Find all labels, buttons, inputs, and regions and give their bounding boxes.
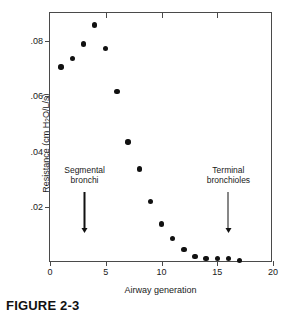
data-point — [159, 221, 164, 226]
data-point — [58, 64, 63, 69]
x-tick-mark — [50, 261, 51, 266]
data-point — [92, 22, 97, 27]
y-tick-label: .02 — [30, 203, 43, 212]
data-point — [81, 41, 86, 46]
data-point — [137, 166, 142, 171]
y-tick-label: .04 — [30, 147, 43, 156]
y-tick-mark — [45, 96, 50, 97]
annotation-arrow-icon — [224, 192, 233, 233]
annotation-arrow-icon — [80, 192, 89, 233]
data-point — [170, 236, 175, 241]
x-tick-mark-top — [217, 13, 218, 18]
y-tick-mark — [45, 207, 50, 208]
data-point — [237, 258, 242, 263]
arrow-head — [81, 228, 87, 233]
x-axis-label: Airway generation — [49, 285, 272, 295]
chart-annotation: Segmentalbronchi — [64, 166, 105, 185]
x-tick-label: 10 — [156, 268, 166, 277]
data-point — [103, 46, 108, 51]
data-point — [70, 56, 75, 61]
arrow-shaft — [84, 192, 85, 229]
x-tick-label: 15 — [212, 268, 222, 277]
data-point — [192, 254, 197, 259]
chart-annotation: Terminalbronchioles — [207, 166, 250, 185]
y-tick-label: .08 — [30, 36, 43, 45]
x-tick-mark — [106, 261, 107, 266]
x-tick-mark — [217, 261, 218, 266]
x-tick-mark-top — [106, 13, 107, 18]
x-tick-label: 5 — [103, 268, 108, 277]
x-tick-label: 0 — [47, 268, 52, 277]
figure-caption: FIGURE 2-3 — [6, 298, 80, 313]
y-tick-label: .06 — [30, 92, 43, 101]
x-tick-mark-top — [162, 13, 163, 18]
plot-area: .02.04.06.08 05101520 SegmentalbronchiTe… — [49, 12, 272, 262]
data-point — [226, 256, 231, 261]
data-point — [114, 89, 119, 94]
annotation-line-2: bronchi — [64, 176, 105, 186]
y-tick-mark — [45, 152, 50, 153]
annotation-line-2: bronchioles — [207, 176, 250, 186]
data-point — [125, 139, 130, 144]
x-tick-mark — [162, 261, 163, 266]
data-point — [181, 247, 186, 252]
data-point — [215, 256, 220, 261]
x-tick-mark — [273, 261, 274, 266]
arrow-shaft — [228, 192, 229, 229]
data-point — [148, 199, 153, 204]
x-tick-label: 20 — [268, 268, 278, 277]
arrow-head — [225, 228, 231, 233]
data-point — [203, 256, 208, 261]
y-tick-mark — [45, 41, 50, 42]
